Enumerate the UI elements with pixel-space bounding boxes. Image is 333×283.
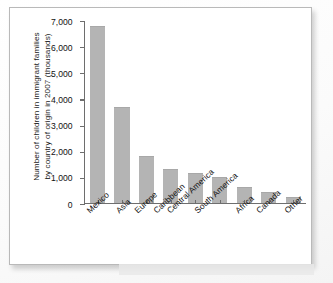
y-tick-label: 7,000 [51, 17, 73, 27]
bar-slot [134, 22, 158, 203]
y-axis-label-line1: Number of children in immigrant families [32, 22, 43, 192]
y-tick-5000: 5,000 [80, 73, 85, 74]
y-tick-2000: 2,000 [80, 152, 85, 153]
x-label-slot: Asia [110, 205, 134, 263]
x-label-slot: South America [208, 205, 232, 263]
x-axis-labels: MexicoAsiaEuropeCaribbeanCentral America… [85, 205, 305, 263]
y-tick-0: 0 [80, 204, 85, 205]
bar-asia[interactable] [114, 107, 129, 203]
x-label-slot: Canada [256, 205, 280, 263]
y-axis-label: Number of children in immigrant families… [32, 22, 53, 192]
y-tick-7000: 7,000 [80, 21, 85, 22]
y-tick-label: 2,000 [51, 147, 73, 157]
caption-cut-text [150, 274, 240, 283]
bar-chart: Number of children in immigrant families… [10, 8, 313, 266]
y-tick-label: 6,000 [51, 43, 73, 53]
bar-slot [281, 22, 305, 203]
y-tick-4000: 4,000 [80, 99, 85, 100]
bar-slot [159, 22, 183, 203]
y-tick-label: 5,000 [51, 69, 73, 79]
plot-area: 7,0006,0005,0004,0003,0002,0001,0000 [84, 21, 306, 204]
y-tick-3000: 3,000 [80, 126, 85, 127]
bar-slot [85, 22, 109, 203]
bar-mexico[interactable] [90, 26, 105, 203]
bar-series [85, 22, 305, 203]
bar-slot [110, 22, 134, 203]
x-label-slot: Europe [134, 205, 158, 263]
y-tick-label: 3,000 [51, 121, 73, 131]
x-label-slot: Other [281, 205, 305, 263]
y-tick-label: 0 [68, 200, 73, 210]
y-tick-1000: 1,000 [80, 178, 85, 179]
bar-slot [256, 22, 280, 203]
x-label-slot: Africa [232, 205, 256, 263]
y-tick-6000: 6,000 [80, 47, 85, 48]
y-tick-label: 1,000 [51, 173, 73, 183]
x-label-slot: Central America [183, 205, 207, 263]
x-label-slot: Mexico [85, 205, 109, 263]
figure-frame: Number of children in immigrant families… [9, 7, 312, 265]
scanned-page: Number of children in immigrant families… [0, 0, 333, 283]
y-tick-label: 4,000 [51, 95, 73, 105]
